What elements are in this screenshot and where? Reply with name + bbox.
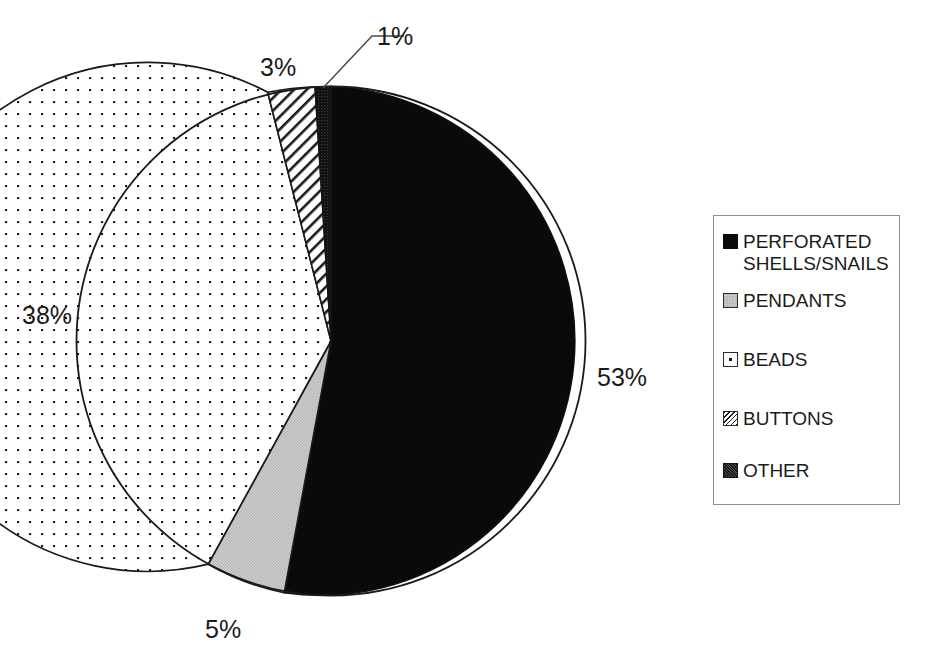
legend-item-buttons: BUTTONS — [723, 408, 833, 430]
slice-label-buttons: 3% — [260, 55, 296, 80]
legend-item-beads: BEADS — [723, 349, 807, 371]
legend-label-line1: PENDANTS — [743, 290, 846, 311]
legend-item-label: PENDANTS — [743, 290, 846, 312]
legend-item-label: BUTTONS — [743, 408, 833, 430]
legend-item-perforated-shells: PERFORATED SHELLS/SNAILS — [723, 231, 889, 275]
legend-label-line2: SHELLS/SNAILS — [743, 253, 889, 275]
legend-label-line1: BEADS — [743, 349, 807, 370]
pie-svg — [0, 0, 660, 659]
slice-label-pendants: 5% — [205, 617, 241, 642]
light-gray-swatch-icon — [723, 293, 738, 308]
legend-item-label: OTHER — [743, 460, 810, 482]
slice-label-beads: 38% — [22, 303, 72, 328]
pie-chart-figure: 1% 3% 38% 53% 5% PERFORATED SHELLS/SNAIL… — [0, 0, 926, 659]
solid-black-swatch-icon — [723, 234, 738, 249]
legend-item-label: PERFORATED SHELLS/SNAILS — [743, 231, 889, 275]
legend-label-line1: PERFORATED — [743, 231, 871, 252]
legend-box: PERFORATED SHELLS/SNAILS PENDANTS BEADS … — [713, 215, 900, 505]
legend-label-line1: OTHER — [743, 460, 810, 481]
diagonal-hatch-swatch-icon — [723, 411, 738, 426]
legend-label-line1: BUTTONS — [743, 408, 833, 429]
dark-dense-swatch-icon — [723, 463, 738, 478]
white-dot-swatch-icon — [723, 352, 738, 367]
slice-label-perforated-shells: 53% — [597, 365, 647, 390]
legend-item-label: BEADS — [743, 349, 807, 371]
slice-label-other: 1% — [377, 24, 413, 49]
pie-plot-area — [0, 0, 660, 659]
legend-item-other: OTHER — [723, 460, 810, 482]
legend-item-pendants: PENDANTS — [723, 290, 846, 312]
